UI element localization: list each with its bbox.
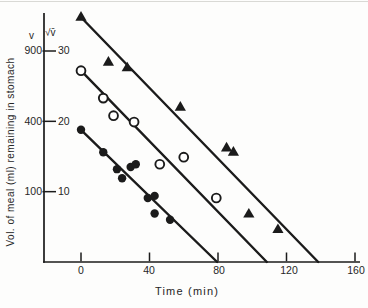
sqrt-v-tick-label-20: 20 (58, 116, 70, 127)
plot-canvas (0, 0, 368, 308)
open-circle-marker (99, 94, 108, 103)
open-circle-marker (212, 194, 221, 203)
v-tick-label-900: 900 (16, 45, 42, 56)
triangle-marker (103, 56, 114, 66)
x-tick-label-120: 120 (280, 265, 298, 276)
triangle-marker (75, 11, 86, 21)
open-circle-marker (77, 66, 86, 75)
v-scale-symbol: v (29, 31, 34, 41)
open-circle-marker (179, 153, 188, 162)
triangle-marker (175, 101, 186, 111)
open-circle-marker (109, 111, 118, 120)
x-tick-label-0: 0 (78, 265, 84, 276)
triangle-marker (122, 62, 133, 72)
sqrt-v-tick-label-30: 30 (58, 45, 70, 56)
sqrt-v-tick-label-10: 10 (58, 186, 70, 197)
x-tick-label-40: 40 (143, 265, 155, 276)
filled-circle-marker (150, 192, 158, 200)
v-tick-label-400: 400 (16, 116, 42, 127)
filled-circle-marker (113, 165, 121, 173)
y-axis-title: Vol. of meal (ml) remaining in stomach (6, 44, 18, 260)
open-circle-marker (130, 118, 139, 127)
v-tick-label-100: 100 (16, 186, 42, 197)
filled-circle-marker (77, 126, 85, 134)
filled-circle-marker (132, 160, 140, 168)
filled-circle-marker (166, 216, 174, 224)
triangle-marker (243, 208, 254, 218)
triangle-marker (221, 142, 232, 152)
filled-circle-marker (118, 174, 126, 182)
gastric-emptying-chart: Vol. of meal (ml) remaining in stomach T… (0, 0, 368, 308)
open-circle-marker (155, 160, 164, 169)
x-axis-title: Time (min) (155, 286, 219, 297)
triangle-series-trendline (81, 17, 318, 262)
x-tick-label-80: 80 (213, 265, 225, 276)
filled-circle-marker (99, 148, 107, 156)
open-circle-series-trendline (81, 71, 267, 262)
x-tick-label-160: 160 (347, 265, 365, 276)
sqrt-v-scale-symbol: √v̄ (45, 28, 56, 38)
filled-circle-marker (150, 209, 158, 217)
